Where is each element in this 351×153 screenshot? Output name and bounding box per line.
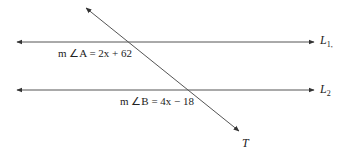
parallel-lines-diagram: L1, L2 T m ∠A = 2x + 62 m ∠B = 4x − 18 [0, 0, 351, 153]
l2-subscript: 2 [327, 89, 331, 98]
angle-a-label: m ∠A = 2x + 62 [58, 47, 132, 60]
diagram-lines [0, 0, 351, 153]
label-l1: L1, [320, 33, 333, 48]
l1-name: L [320, 33, 327, 47]
l1-trailing: , [331, 40, 333, 49]
l2-name: L [320, 82, 327, 96]
label-t: T [242, 136, 249, 151]
label-l2: L2 [320, 82, 331, 97]
angle-b-label: m ∠B = 4x − 18 [120, 95, 194, 108]
transversal-t [86, 8, 239, 131]
